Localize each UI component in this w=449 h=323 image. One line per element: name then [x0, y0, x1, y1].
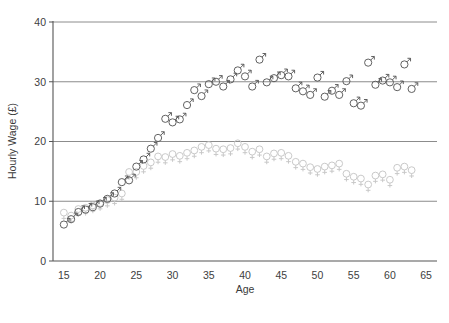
data-point-male [183, 99, 193, 109]
data-point-female [205, 142, 212, 153]
data-point-female [343, 170, 350, 181]
y-tick-label: 30 [34, 76, 46, 88]
data-point-female [118, 190, 125, 201]
data-point-female [365, 181, 372, 192]
x-tick-label: 25 [130, 269, 142, 281]
data-point-male [314, 71, 324, 81]
data-point-male [365, 56, 375, 66]
data-point-female [358, 175, 365, 186]
data-point-male [169, 116, 179, 126]
data-point-male [292, 82, 302, 92]
data-point-female [300, 160, 307, 171]
x-tick-label: 30 [167, 269, 179, 281]
data-point-female [271, 150, 278, 161]
data-point-male [321, 91, 331, 101]
data-point-female [336, 160, 343, 171]
data-point-female [379, 171, 386, 182]
x-tick-label: 40 [239, 269, 251, 281]
data-point-female [220, 146, 227, 157]
y-axis-tick-labels: 010203040 [34, 16, 46, 267]
data-point-female [387, 176, 394, 187]
x-tick-label: 20 [94, 269, 106, 281]
x-tick-label: 45 [275, 269, 287, 281]
x-tick-label: 55 [348, 269, 360, 281]
data-point-female [140, 163, 147, 174]
data-point-female [278, 149, 285, 160]
wage-by-age-scatter-chart: 010203040 1520253035404550556065 Hourly … [0, 0, 449, 300]
x-tick-label: 50 [312, 269, 324, 281]
data-point-female [162, 154, 169, 165]
axis-ticks [49, 22, 53, 261]
y-tick-label: 10 [34, 195, 46, 207]
data-point-female [321, 163, 328, 174]
data-point-male [307, 89, 317, 99]
data-point-female [307, 164, 314, 175]
data-point-female [147, 159, 154, 170]
x-tick-label: 35 [203, 269, 215, 281]
data-point-male [60, 218, 70, 228]
axis-lines [53, 21, 437, 261]
data-point-male [299, 85, 309, 95]
data-point-male [147, 143, 157, 153]
data-point-female [314, 166, 321, 177]
data-point-female [227, 145, 234, 156]
y-tick-label: 40 [34, 16, 46, 28]
data-point-male [357, 100, 367, 110]
data-point-female [285, 152, 292, 163]
data-point-female [155, 153, 162, 164]
data-point-female [372, 172, 379, 183]
data-point-female [292, 158, 299, 169]
data-point-female [249, 148, 256, 159]
data-point-female [408, 167, 415, 178]
data-point-female [184, 149, 191, 160]
data-point-male [343, 75, 353, 85]
chart-figure: 010203040 1520253035404550556065 Hourly … [0, 0, 449, 323]
data-point-female [242, 143, 249, 154]
data-point-male [241, 70, 251, 80]
x-axis-tick-labels: 1520253035404550556065 [58, 269, 432, 281]
data-point-female [401, 163, 408, 174]
x-tick-label: 15 [58, 269, 70, 281]
x-axis-title: Age [236, 283, 255, 295]
series-female-points [60, 140, 415, 223]
data-point-female [394, 164, 401, 175]
caption-strip [0, 300, 449, 323]
data-point-male [176, 113, 186, 123]
data-point-male [336, 89, 346, 99]
data-point-female [176, 152, 183, 163]
x-tick-label: 60 [384, 269, 396, 281]
data-point-female [329, 162, 336, 173]
data-point-female [60, 209, 67, 220]
data-point-male [350, 97, 360, 107]
data-point-female [191, 147, 198, 158]
data-point-female [169, 151, 176, 162]
data-point-male [191, 84, 201, 94]
data-point-male [394, 81, 404, 91]
y-axis-title: Hourly Wage (£) [6, 103, 18, 179]
data-point-male [198, 90, 208, 100]
data-point-male [234, 64, 244, 74]
data-point-male [162, 113, 172, 123]
data-point-male [256, 54, 266, 64]
x-tick-label: 65 [420, 269, 432, 281]
data-point-male [154, 132, 164, 142]
series-male-points [60, 54, 418, 229]
data-point-female [256, 146, 263, 157]
y-tick-label: 20 [34, 135, 46, 147]
data-point-male [408, 83, 418, 93]
data-point-female [350, 173, 357, 184]
data-point-female [213, 145, 220, 156]
data-point-female [263, 153, 270, 164]
data-point-female [198, 143, 205, 154]
y-tick-label: 0 [40, 255, 46, 267]
data-point-male [285, 70, 295, 80]
data-point-male [401, 58, 411, 68]
